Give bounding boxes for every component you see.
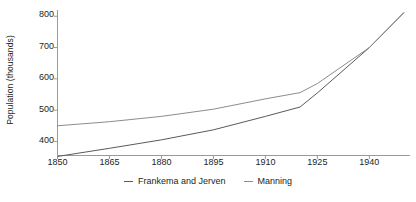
axis-lines [58, 10, 411, 156]
line-chart: Population (thousands) 800 700 600 500 4… [0, 0, 416, 202]
y-axis-title: Population (thousands) [0, 0, 20, 160]
y-axis-title-text: Population (thousands) [5, 35, 15, 125]
chart-legend: Frankema and Jerven Manning [0, 176, 416, 186]
y-tick-label-500: 500 [20, 105, 54, 114]
y-tick-label-800: 800 [20, 10, 54, 19]
y-tick-label-400: 400 [20, 136, 54, 145]
data-series-layer [58, 13, 405, 157]
x-tick-label-1895: 1895 [193, 158, 233, 167]
x-tick-label-1850: 1850 [38, 158, 78, 167]
x-tick-label-1940: 1940 [349, 158, 389, 167]
y-axis-ticks [54, 16, 58, 141]
legend-item-manning[interactable]: Manning [244, 176, 293, 186]
legend-label-frankema-and-jerven: Frankema and Jerven [138, 176, 226, 186]
legend-line-icon [124, 181, 133, 182]
legend-item-frankema-and-jerven[interactable]: Frankema and Jerven [124, 176, 226, 186]
legend-label-manning: Manning [258, 176, 293, 186]
plot-area [0, 0, 416, 202]
series-line-manning [58, 13, 405, 126]
legend-line-icon [244, 181, 253, 182]
series-line-frankema-and-jerven [58, 13, 405, 157]
y-axis-tick-labels: 800 700 600 500 400 [18, 0, 54, 160]
x-tick-label-1880: 1880 [141, 158, 181, 167]
x-tick-label-1925: 1925 [297, 158, 337, 167]
x-tick-label-1865: 1865 [89, 158, 129, 167]
y-tick-label-700: 700 [20, 42, 54, 51]
x-tick-label-1910: 1910 [245, 158, 285, 167]
y-tick-label-600: 600 [20, 73, 54, 82]
